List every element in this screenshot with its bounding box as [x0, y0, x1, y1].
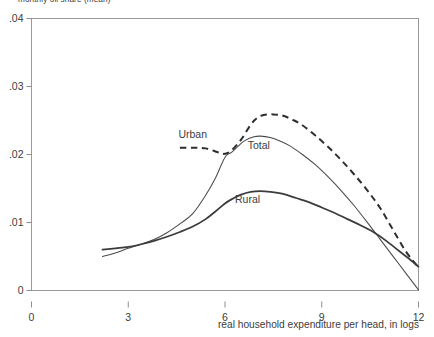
chart-container: monthly oil share (mean) 0.01.02.03.04 0…: [0, 0, 434, 337]
y-tick-label: .03: [9, 80, 24, 92]
x-axis-title: real household expenditure per head, in …: [218, 319, 419, 330]
curve-rural: [102, 191, 418, 266]
y-axis-ticks: 0.01.02.03.04: [9, 12, 32, 296]
y-tick-label: .02: [9, 148, 24, 160]
x-tick-label: 3: [125, 311, 131, 323]
series-label-urban: Urban: [178, 128, 207, 140]
curve-urban: [180, 114, 419, 267]
curve-total: [102, 136, 418, 290]
series-label-rural: Rural: [235, 193, 260, 205]
x-tick-label: 0: [29, 311, 35, 323]
y-tick-label: .01: [9, 216, 24, 228]
series-annotations: UrbanTotalRural: [178, 128, 270, 206]
chart-svg: 0.01.02.03.04 036912 UrbanTotalRural rea…: [0, 0, 434, 337]
y-tick-label: .04: [9, 12, 24, 24]
series-label-total: Total: [248, 139, 270, 151]
y-tick-label: 0: [18, 284, 24, 296]
